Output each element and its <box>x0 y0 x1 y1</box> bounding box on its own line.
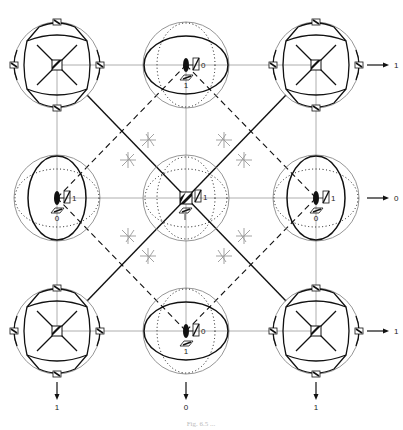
orbital-lobe <box>313 191 319 205</box>
arrow-down: 1 <box>314 382 319 412</box>
orbital-lobe <box>54 191 60 205</box>
ligand-marker <box>120 152 136 168</box>
figure-caption: Fig. 6.5 ... <box>187 420 216 428</box>
spin-arrow <box>323 191 329 203</box>
arrow-right: 0 <box>367 194 399 203</box>
ligand-marker <box>236 228 252 244</box>
lattice-diagram: 011011001 101101 Fig. 6.5 ... <box>0 0 403 430</box>
arrowhead-icon <box>55 394 60 400</box>
spin-label: 1 <box>203 193 208 202</box>
spin-label: 1 <box>331 194 336 203</box>
arrowhead-icon <box>184 394 189 400</box>
spin-label: 0 <box>201 61 206 70</box>
arrow-right: 1 <box>367 61 399 70</box>
ligand-marker <box>140 132 156 148</box>
arrow-label: 0 <box>184 403 189 412</box>
arrow-label: 1 <box>394 327 399 336</box>
ligand-marker <box>236 152 252 168</box>
spin-label: 1 <box>72 194 77 203</box>
spin-arrow <box>193 324 199 336</box>
arrow-label: 1 <box>55 403 60 412</box>
spin-arrow <box>64 191 70 203</box>
lower-label: 0 <box>55 214 60 223</box>
ligand-marker <box>216 132 232 148</box>
arrow-right: 1 <box>367 327 399 336</box>
arrowhead-icon <box>314 394 319 400</box>
lower-label: 0 <box>314 214 319 223</box>
arrow-label: 0 <box>394 194 399 203</box>
arrow-label: 1 <box>394 61 399 70</box>
arrowhead-icon <box>383 329 389 334</box>
arrow-down: 1 <box>55 382 60 412</box>
orbital-lobe <box>183 58 189 72</box>
arrowhead-icon <box>383 196 389 201</box>
arrow-down: 0 <box>184 382 189 412</box>
ligand-marker <box>216 248 232 264</box>
lower-label: 1 <box>184 347 189 356</box>
spin-label: 0 <box>201 327 206 336</box>
spin-arrow <box>193 58 199 70</box>
ligand-marker <box>140 248 156 264</box>
arrow-label: 1 <box>314 403 319 412</box>
lattice-diagram-canvas: 011011001 101101 Fig. 6.5 ... <box>0 0 403 430</box>
ligand-marker <box>120 228 136 244</box>
spin-arrow <box>195 190 201 202</box>
orbital-lobe <box>183 324 189 338</box>
lower-label: 1 <box>184 81 189 90</box>
direction-arrows: 101101 <box>55 61 400 412</box>
arrowhead-icon <box>383 63 389 68</box>
